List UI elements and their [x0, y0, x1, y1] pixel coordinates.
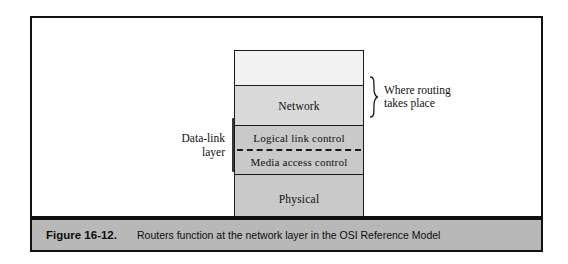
osi-layer-network: Network	[234, 85, 364, 126]
osi-layer-upper	[234, 50, 364, 86]
osi-layer-physical-label: Physical	[279, 193, 320, 205]
osi-sublayer-mac-label: Media access control	[251, 156, 348, 168]
osi-layer-stack: Network Logical link control Media acces…	[234, 50, 364, 224]
osi-layer-data-link: Logical link control Media access contro…	[234, 125, 364, 175]
osi-sublayer-mac: Media access control	[235, 150, 363, 174]
osi-sublayer-llc-label: Logical link control	[253, 132, 344, 144]
routing-annotation: Where routing takes place	[368, 76, 528, 118]
data-link-annotation-line2: layer	[202, 146, 225, 158]
osi-layer-network-label: Network	[278, 100, 320, 112]
right-curly-brace-icon	[369, 76, 378, 118]
data-link-annotation: Data-link layer	[128, 118, 240, 172]
routing-annotation-label: Where routing takes place	[384, 84, 451, 111]
routing-annotation-line1: Where routing	[384, 84, 451, 96]
data-link-annotation-line1: Data-link	[182, 132, 225, 144]
data-link-annotation-label: Data-link layer	[182, 131, 225, 159]
diagram-canvas: Data-link layer Network Logical link co	[32, 18, 541, 216]
figure-caption-text: Routers function at the network layer in…	[137, 229, 441, 241]
osi-sublayer-llc: Logical link control	[235, 126, 363, 150]
figure-number: Figure 16-12.	[46, 229, 117, 241]
data-link-dashed-divider	[237, 149, 361, 151]
figure-root: Data-link layer Network Logical link co	[0, 0, 568, 264]
figure-caption-bar: Figure 16-12. Routers function at the ne…	[32, 216, 541, 250]
routing-annotation-line2: takes place	[384, 97, 435, 109]
